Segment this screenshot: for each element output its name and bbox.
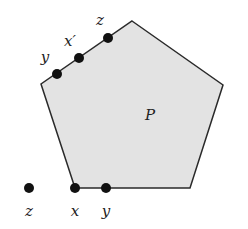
point-y-upper — [52, 69, 62, 79]
point-x-lower — [70, 183, 80, 193]
label-x-prime: x′ — [64, 32, 76, 50]
label-z-upper: z — [95, 11, 104, 29]
point-y-lower — [101, 183, 111, 193]
label-z-lower: z — [24, 202, 33, 220]
label-y-upper: y — [40, 48, 50, 66]
point-x-prime — [74, 53, 84, 63]
polygon-label: P — [144, 106, 156, 124]
label-x-lower: x — [71, 202, 80, 220]
point-z-upper — [103, 33, 113, 43]
label-y-lower: y — [101, 202, 111, 220]
point-z-lower — [24, 183, 34, 193]
diagram-canvas: P yx′zzxy — [0, 0, 248, 229]
